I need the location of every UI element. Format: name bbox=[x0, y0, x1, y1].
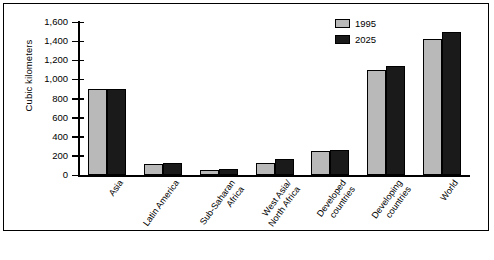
legend-label-2025: 2025 bbox=[355, 34, 376, 45]
bars-layer bbox=[79, 22, 470, 175]
legend-item-2025: 2025 bbox=[335, 32, 376, 46]
bar-1995 bbox=[144, 164, 163, 175]
y-tick-label: 400 bbox=[52, 131, 68, 142]
bar-group bbox=[88, 22, 126, 175]
bar-group bbox=[256, 22, 294, 175]
bar-1995 bbox=[311, 151, 330, 175]
y-tick-label: 0 bbox=[63, 169, 68, 180]
y-tick-label: 1,000 bbox=[44, 73, 68, 84]
y-tick-label: 1,400 bbox=[44, 35, 68, 46]
bar-2025 bbox=[219, 169, 238, 175]
x-axis-line bbox=[78, 175, 470, 177]
legend-swatch-2025 bbox=[335, 35, 350, 44]
bar-2025 bbox=[275, 159, 294, 175]
x-category-label: Latin America bbox=[120, 178, 181, 257]
y-tick-label: 1,600 bbox=[44, 16, 68, 27]
bar-2025 bbox=[107, 89, 126, 175]
y-tick-label: 800 bbox=[52, 93, 68, 104]
bar-1995 bbox=[88, 89, 107, 175]
y-tick-label: 600 bbox=[52, 112, 68, 123]
y-axis-title: Cubic kilometers bbox=[23, 21, 34, 131]
legend-item-1995: 1995 bbox=[335, 16, 376, 30]
bar-2025 bbox=[330, 150, 349, 175]
legend-swatch-1995 bbox=[335, 19, 350, 28]
bar-chart: Cubic kilometers 02004006008001,0001,200… bbox=[0, 0, 494, 260]
bar-group bbox=[423, 22, 461, 175]
bar-1995 bbox=[367, 70, 386, 175]
bar-1995 bbox=[423, 39, 442, 175]
bar-2025 bbox=[163, 163, 182, 175]
bar-group bbox=[144, 22, 182, 175]
chart-legend: 1995 2025 bbox=[335, 16, 376, 48]
y-tick-label: 1,200 bbox=[44, 54, 68, 65]
bar-2025 bbox=[386, 66, 405, 175]
x-axis-category-labels: AsiaLatin AmericaSub-Saharan AfricaWest … bbox=[79, 178, 470, 258]
bar-2025 bbox=[442, 32, 461, 175]
legend-label-1995: 1995 bbox=[355, 18, 376, 29]
bar-group bbox=[200, 22, 238, 175]
bar-1995 bbox=[200, 170, 219, 175]
bar-1995 bbox=[256, 163, 275, 175]
y-tick-label: 200 bbox=[52, 150, 68, 161]
